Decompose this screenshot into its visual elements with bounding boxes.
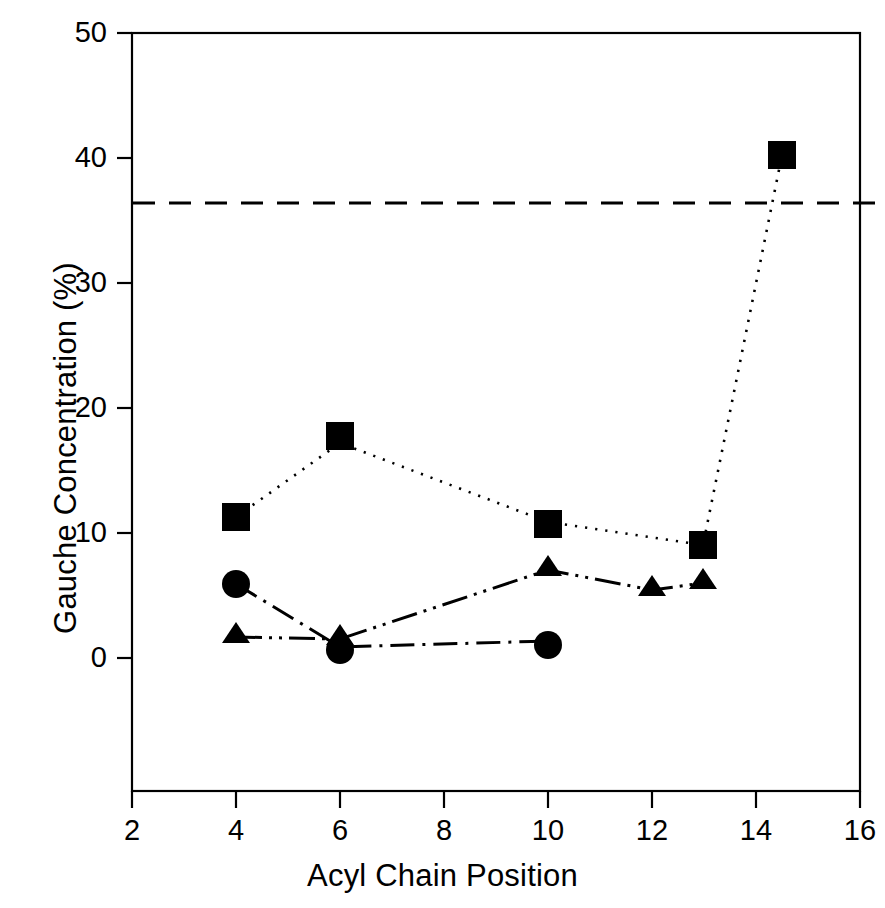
x-axis-ticks bbox=[132, 791, 860, 808]
x-tick-label-6: 6 bbox=[310, 814, 370, 847]
chart-plot-area bbox=[0, 0, 885, 908]
series-triangles-markers bbox=[222, 555, 717, 645]
x-tick-label-12: 12 bbox=[622, 814, 682, 847]
y-tick-label-50: 50 bbox=[37, 16, 107, 49]
series-triangles-line bbox=[236, 570, 703, 639]
chart-figure: 50 40 30 20 10 0 2 4 6 8 10 12 14 16 Acy… bbox=[0, 0, 885, 908]
x-axis-title: Acyl Chain Position bbox=[0, 858, 885, 894]
series-circles-markers bbox=[222, 570, 562, 664]
x-tick-label-16: 16 bbox=[830, 814, 885, 847]
x-tick-label-14: 14 bbox=[726, 814, 786, 847]
x-tick-label-2: 2 bbox=[102, 814, 162, 847]
series-squares-line bbox=[236, 155, 782, 545]
plot-frame bbox=[132, 33, 860, 791]
x-tick-label-8: 8 bbox=[414, 814, 474, 847]
y-axis-ticks bbox=[117, 33, 132, 658]
x-tick-label-10: 10 bbox=[518, 814, 578, 847]
x-tick-label-4: 4 bbox=[206, 814, 266, 847]
series-circles-line bbox=[236, 584, 548, 647]
y-axis-title: Gauche Concentration (%) bbox=[48, 148, 84, 748]
